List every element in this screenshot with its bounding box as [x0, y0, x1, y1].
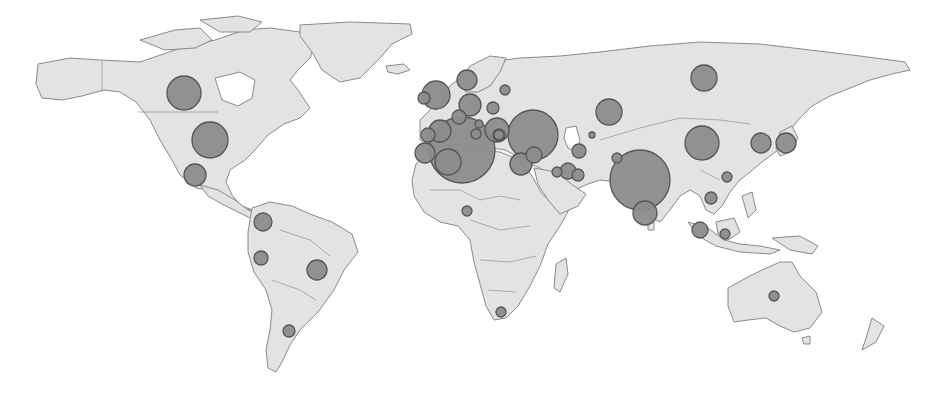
bubble-colombia — [254, 213, 272, 231]
bubble-algeria-morocco — [435, 149, 461, 175]
new-zealand — [862, 318, 884, 350]
bubble-canada — [167, 76, 201, 110]
bubble-nigeria — [462, 206, 472, 216]
philippines — [742, 192, 756, 218]
bubble-ireland — [418, 92, 430, 104]
bubble-austria — [471, 129, 481, 139]
bubble-turkmenistan — [572, 144, 586, 158]
bubble-norway — [457, 70, 477, 90]
bubble-pakistan — [612, 153, 622, 163]
arctic-islands — [200, 16, 262, 32]
bubble-netherlands — [452, 110, 466, 124]
bubble-iraq — [552, 167, 562, 177]
bubble-peru — [254, 251, 268, 265]
bubble-portugal — [415, 143, 435, 163]
land-layer — [36, 16, 910, 372]
bubble-czechia — [475, 120, 483, 128]
bubble-poland — [487, 102, 499, 114]
bubble-argentina — [283, 325, 295, 337]
world-map — [0, 0, 948, 393]
bubble-borneo — [720, 229, 730, 239]
bubble-south-korea — [751, 133, 771, 153]
bubble-greece — [494, 130, 504, 140]
bubble-turkey — [526, 147, 542, 163]
bubble-united-states — [192, 122, 228, 158]
bubble-kazakhstan — [596, 99, 622, 125]
bubble-mexico — [184, 164, 206, 186]
bubble-finland-russia-nw — [500, 85, 510, 95]
bubble-spain — [421, 128, 435, 142]
bubble-south-africa — [496, 307, 506, 317]
bubble-afghanistan — [572, 169, 584, 181]
tasmania — [802, 336, 810, 344]
bubble-vietnam — [722, 172, 732, 182]
new-guinea — [772, 236, 818, 254]
bubble-sri-lanka — [633, 201, 657, 225]
north-america-landmass — [36, 28, 315, 210]
bubble-russia-siberia- — [691, 65, 717, 91]
bubble-malaysia-indonesia-w — [692, 222, 708, 238]
madagascar — [554, 258, 568, 292]
bubble-japan — [776, 133, 796, 153]
bubble-thailand-cambodia — [705, 192, 717, 204]
bubble-uzbekistan — [589, 132, 595, 138]
bubble-brazil — [307, 260, 327, 280]
bubble-australia — [769, 291, 779, 301]
iceland — [386, 64, 410, 74]
bubble-china — [685, 126, 719, 160]
